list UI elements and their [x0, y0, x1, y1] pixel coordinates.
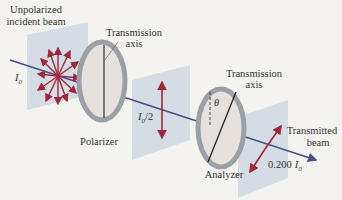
incident-label-line1: Unpolarized	[10, 4, 63, 15]
incident-label-line2: incident beam	[6, 16, 65, 27]
analyzer-label: Analyzer	[205, 169, 244, 180]
analyzer-axis-label-line2: axis	[246, 79, 263, 90]
polarizer-axis-label-line1: Transmission	[106, 27, 163, 38]
polarizer-label: Polarizer	[80, 136, 118, 147]
incident-intensity-label: I0	[14, 72, 23, 86]
analyzer-disk	[198, 89, 244, 167]
polarization-diagram: Unpolarized incident beam I0 Transmissio…	[0, 0, 342, 200]
transmitted-label-line1: Transmitted	[287, 125, 338, 136]
polarizer-disk	[79, 42, 125, 120]
analyzer-axis-label-line1: Transmission	[226, 68, 283, 79]
polarizer-axis-label-line2: axis	[126, 38, 143, 49]
angle-theta-label: θ	[214, 97, 219, 108]
transmitted-label-line2: beam	[307, 137, 330, 148]
diagram-canvas: Unpolarized incident beam I0 Transmissio…	[0, 0, 342, 200]
